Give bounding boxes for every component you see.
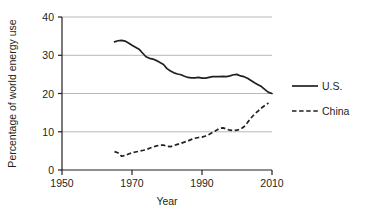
x-tick-label-1990: 1990 (190, 177, 214, 189)
chart-figure: 40 30 20 10 0 1950 1970 1990 2010 Year P… (0, 0, 375, 215)
x-tick-label-1950: 1950 (50, 177, 74, 189)
chart-legend: U.S. China (292, 80, 350, 117)
y-tick-label-0: 0 (48, 164, 54, 176)
series-line-china (115, 103, 269, 156)
series-line-us (115, 40, 273, 93)
gridlines (62, 17, 272, 132)
y-tick-label-30: 30 (42, 49, 54, 61)
legend-item-china[interactable]: China (292, 105, 350, 117)
x-tick-label-1970: 1970 (120, 177, 144, 189)
legend-label-china: China (322, 105, 350, 117)
x-axis-title: Year (156, 195, 178, 207)
legend-item-us[interactable]: U.S. (292, 80, 342, 92)
y-tick-label-10: 10 (42, 126, 54, 138)
x-tick-label-2010: 2010 (260, 177, 284, 189)
x-ticks (62, 170, 272, 175)
legend-label-us: U.S. (322, 80, 342, 92)
line-chart: 40 30 20 10 0 1950 1970 1990 2010 Year P… (0, 0, 375, 215)
y-tick-label-40: 40 (42, 11, 54, 23)
y-tick-label-20: 20 (42, 88, 54, 100)
y-axis-title: Percentage of world energy use (6, 19, 18, 167)
